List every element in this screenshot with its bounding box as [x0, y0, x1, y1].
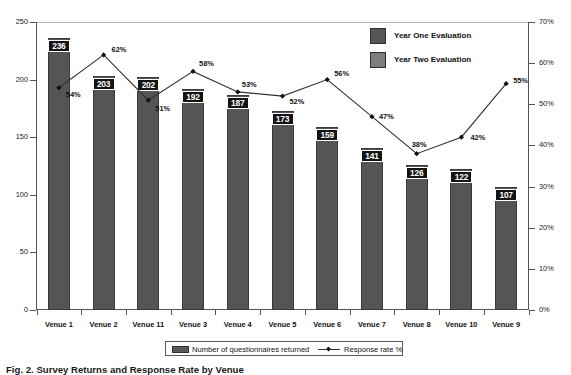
y-axis-left-tick [30, 195, 36, 196]
y-axis-right-tick [529, 22, 535, 23]
y-axis-right-tick-label: 20% [539, 224, 554, 232]
year-two-label: Year Two Evaluation [394, 55, 471, 64]
y-axis-right-tick [529, 269, 535, 270]
y-axis-right-tick-label: 60% [539, 59, 554, 67]
y-axis-left-tick [30, 22, 36, 23]
y-axis-right-tick-label: 30% [539, 183, 554, 191]
response-rate-value-label: 52% [290, 98, 305, 106]
questionnaires-legend-label: Number of questionnaires returned [192, 345, 309, 354]
response-rate-value-label: 38% [412, 141, 427, 149]
figure-caption: Fig. 2. Survey Returns and Response Rate… [6, 364, 244, 375]
y-axis-right-tick [529, 145, 535, 146]
year-one-label: Year One Evaluation [394, 31, 471, 40]
response-rate-value-label: 58% [199, 60, 214, 68]
year-one-swatch [370, 28, 386, 44]
year-two-swatch [370, 52, 386, 68]
y-axis-right-tick [529, 187, 535, 188]
y-axis-left-tick-label: 0 [0, 306, 28, 314]
y-axis-right-tick-label: 70% [539, 18, 554, 26]
y-axis-right-tick-label: 0% [539, 306, 550, 314]
response-rate-legend-label: Response rate % [344, 345, 402, 354]
response-rate-legend-marker-icon [326, 347, 331, 352]
line-data-point-marker [280, 93, 285, 98]
y-axis-left-tick [30, 80, 36, 81]
y-axis-right-tick [529, 63, 535, 64]
response-rate-value-label: 62% [112, 46, 127, 54]
response-rate-value-label: 54% [66, 91, 81, 99]
y-axis-left-tick-label: 50 [0, 248, 28, 256]
response-rate-value-label: 53% [242, 81, 257, 89]
y-axis-right-tick [529, 310, 535, 311]
y-axis-left-tick-label: 150 [0, 133, 28, 141]
figure-container: Venue 1Venue 2Venue 11Venue 3Venue 4Venu… [0, 0, 571, 375]
response-rate-value-label: 42% [470, 134, 485, 142]
questionnaires-swatch [172, 346, 189, 353]
line-data-point-marker [235, 89, 240, 94]
y-axis-left-tick [30, 310, 36, 311]
y-axis-left-tick [30, 137, 36, 138]
y-axis-right-tick-label: 50% [539, 100, 554, 108]
y-axis-right-tick [529, 104, 535, 105]
inner-legend: Year One Evaluation Year Two Evaluation [370, 28, 520, 72]
response-rate-value-label: 56% [334, 70, 349, 78]
y-axis-right-tick [529, 228, 535, 229]
y-axis-left-tick [30, 252, 36, 253]
y-axis-left-tick-label: 100 [0, 191, 28, 199]
y-axis-left-tick-label: 200 [0, 76, 28, 84]
y-axis-left-tick-label: 250 [0, 18, 28, 26]
response-rate-value-label: 55% [513, 77, 528, 85]
response-rate-value-label: 51% [155, 105, 170, 113]
response-rate-value-label: 47% [379, 113, 394, 121]
y-axis-right-tick-label: 40% [539, 141, 554, 149]
bottom-legend: Number of questionnaires returned Respon… [165, 341, 403, 356]
y-axis-right-tick-label: 10% [539, 265, 554, 273]
